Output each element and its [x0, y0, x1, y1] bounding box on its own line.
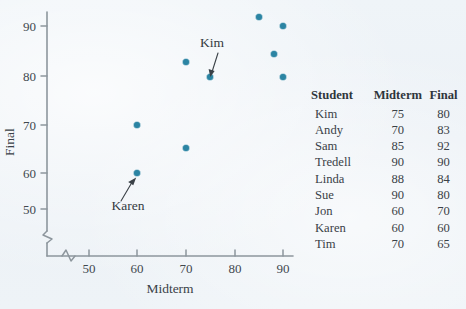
x-tick-label-80: 80	[229, 261, 242, 276]
table-row: Kim 75 80	[305, 106, 463, 122]
column-header-student: Student	[305, 88, 372, 106]
x-tick-label-50: 50	[83, 261, 96, 276]
y-tick-label-50: 50	[23, 202, 36, 217]
y-tick-label-70: 70	[23, 118, 36, 133]
data-point-linda	[270, 50, 277, 57]
annotation-arrowhead-karen	[128, 177, 136, 185]
cell-final: 80	[424, 106, 463, 122]
cell-midterm: 60	[372, 220, 425, 236]
table-row: Sue 90 80	[305, 187, 463, 203]
table-body: Kim 75 80 Andy 70 83 Sam 85 92 Tredell 9…	[305, 106, 463, 253]
table-header-row: Student Midterm Final	[305, 88, 463, 106]
cell-midterm: 70	[372, 236, 425, 252]
y-tick-label-60: 60	[23, 166, 36, 181]
cell-student: Karen	[305, 220, 372, 236]
annotation-arrow-kim	[212, 53, 218, 72]
cell-midterm: 75	[372, 106, 425, 122]
annotation-label-kim: Kim	[200, 35, 225, 50]
annotation-label-karen: Karen	[112, 198, 145, 213]
cell-midterm: 88	[372, 171, 425, 187]
cell-student: Jon	[305, 204, 372, 220]
cell-final: 60	[424, 220, 463, 236]
cell-midterm: 90	[372, 187, 425, 203]
cell-student: Tim	[305, 236, 372, 252]
table-row: Karen 60 60	[305, 220, 463, 236]
cell-midterm: 60	[372, 204, 425, 220]
x-axis-title: Midterm	[146, 281, 194, 296]
scores-table: Student Midterm Final Kim 75 80 Andy 70 …	[305, 88, 463, 253]
cell-midterm: 85	[372, 139, 425, 155]
cell-student: Kim	[305, 106, 372, 122]
x-tick-label-70: 70	[180, 261, 193, 276]
table-row: Tredell 90 90	[305, 155, 463, 171]
table-row: Linda 88 84	[305, 171, 463, 187]
data-point-tim	[182, 144, 189, 151]
table-row: Jon 60 70	[305, 204, 463, 220]
y-tick-label-90: 90	[23, 19, 36, 34]
data-point-jon	[133, 121, 140, 128]
x-tick-label-90: 90	[277, 261, 290, 276]
cell-final: 84	[424, 171, 463, 187]
cell-student: Sue	[305, 187, 372, 203]
cell-student: Tredell	[305, 155, 372, 171]
cell-final: 90	[424, 155, 463, 171]
cell-midterm: 90	[372, 155, 425, 171]
table-row: Andy 70 83	[305, 122, 463, 138]
cell-student: Andy	[305, 122, 372, 138]
student-scores-table: Student Midterm Final Kim 75 80 Andy 70 …	[305, 88, 463, 253]
y-tick-label-80: 80	[23, 69, 36, 84]
data-point-sam	[255, 13, 262, 20]
data-point-karen	[133, 169, 140, 176]
y-axis-break-mark	[43, 231, 52, 243]
table-row: Tim 70 65	[305, 236, 463, 252]
cell-final: 80	[424, 187, 463, 203]
cell-final: 65	[424, 236, 463, 252]
cell-student: Sam	[305, 139, 372, 155]
data-point-sue	[279, 73, 286, 80]
table-header: Student Midterm Final	[305, 88, 463, 106]
data-point-andy	[182, 58, 189, 65]
y-axis-title: Final	[2, 128, 17, 156]
column-header-midterm: Midterm	[372, 88, 425, 106]
x-tick-label-60: 60	[131, 261, 144, 276]
cell-student: Linda	[305, 171, 372, 187]
cell-final: 92	[424, 139, 463, 155]
column-header-final: Final	[424, 88, 463, 106]
table-row: Sam 85 92	[305, 139, 463, 155]
cell-final: 83	[424, 122, 463, 138]
cell-final: 70	[424, 204, 463, 220]
data-point-tredell	[279, 22, 286, 29]
cell-midterm: 70	[372, 122, 425, 138]
